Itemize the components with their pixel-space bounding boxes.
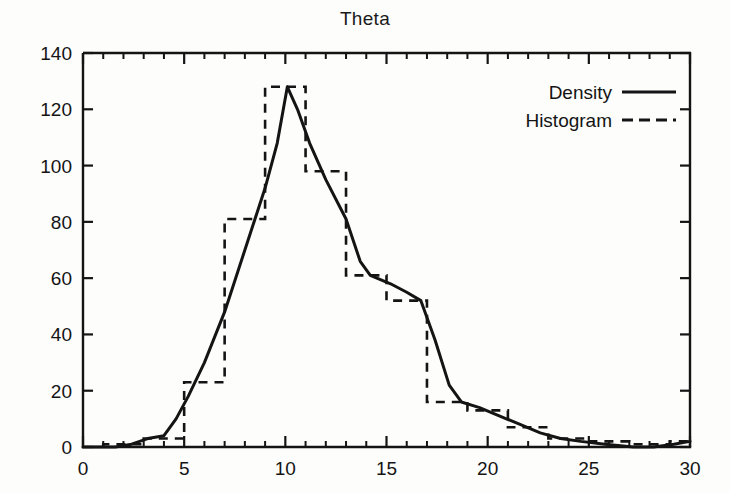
x-tick-label: 5 [179,458,190,479]
chart-figure: Theta 020406080100120140 051015202530 De… [0,0,730,493]
y-tick-label: 80 [51,212,72,233]
x-tick-label: 0 [78,458,89,479]
x-tick-label: 20 [477,458,498,479]
y-tick-label: 60 [51,268,72,289]
x-tick-label: 15 [376,458,397,479]
plot-area: 020406080100120140 051015202530 Density … [0,0,730,493]
y-tick-label: 20 [51,381,72,402]
x-tick-labels: 051015202530 [78,458,701,479]
y-tick-label: 120 [40,99,72,120]
y-tick-label: 40 [51,324,72,345]
y-tick-label: 0 [61,437,72,458]
legend-label-histogram: Histogram [525,110,612,131]
x-tick-label: 30 [679,458,700,479]
density-curve [83,87,690,447]
y-tick-label: 100 [40,156,72,177]
y-tick-label: 140 [40,43,72,64]
y-tick-labels: 020406080100120140 [40,43,72,458]
x-tick-label: 10 [275,458,296,479]
x-tick-label: 25 [578,458,599,479]
legend: Density Histogram [525,82,676,131]
legend-label-density: Density [549,82,613,103]
